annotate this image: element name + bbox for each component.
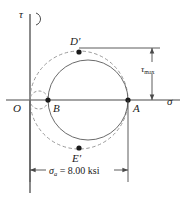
point-E-prime-label: E′ — [71, 152, 82, 164]
sigma-axis-label: σ — [167, 95, 173, 107]
tau-max-arrow-up-icon — [150, 48, 155, 53]
point-E-prime-marker — [76, 145, 81, 150]
sigma-a-arrow-right-icon — [122, 168, 128, 173]
tau-max-arrow-down-icon — [150, 95, 155, 100]
tau-max-subscript: max — [144, 69, 154, 75]
point-B-label: B — [53, 102, 60, 114]
mohrs-circle-svg: τ σ O B A D′ E′ τmax σa= 8.00 ksi — [0, 0, 186, 201]
tau-rotation-arrow-icon — [36, 13, 41, 25]
sigma-a-arrow-left-icon — [30, 168, 36, 173]
point-D-prime-marker — [76, 49, 81, 54]
point-D-prime-label: D′ — [69, 35, 81, 47]
point-B-marker — [45, 97, 50, 102]
sigma-a-value: = 8.00 ksi — [60, 165, 100, 176]
sigma-a-subscript: a — [54, 170, 57, 177]
point-A-label: A — [132, 102, 140, 114]
point-O-label: O — [13, 102, 21, 114]
mohrs-circle-figure: τ σ O B A D′ E′ τmax σa= 8.00 ksi — [0, 0, 186, 201]
tau-axis-label: τ — [19, 8, 24, 20]
